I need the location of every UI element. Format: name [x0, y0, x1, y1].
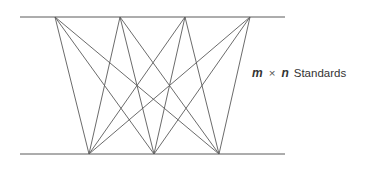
m-variable: m — [252, 66, 263, 80]
connection-line — [89, 17, 120, 154]
connection-line — [89, 17, 250, 154]
n-variable: n — [281, 66, 288, 80]
standards-label: m×nStandards — [252, 66, 346, 80]
standards-word: Standards — [294, 67, 346, 79]
connection-line — [55, 17, 89, 154]
bipartite-diagram — [0, 0, 377, 172]
times-symbol: × — [269, 67, 276, 79]
connection-line — [89, 17, 185, 154]
connection-line — [154, 17, 250, 154]
connection-line — [219, 17, 250, 154]
connection-lines — [55, 17, 250, 154]
